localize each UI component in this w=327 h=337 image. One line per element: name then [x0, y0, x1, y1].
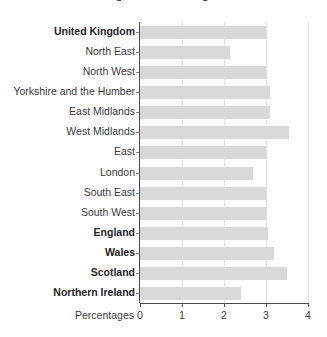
- category-label: North East: [0, 46, 135, 57]
- value-tick: [224, 303, 225, 307]
- category-tick: [136, 32, 139, 33]
- category-tick: [136, 253, 139, 254]
- category-tick: [136, 173, 139, 174]
- category-tick: [136, 233, 139, 234]
- bar-row: [140, 163, 308, 185]
- category-label: North West: [0, 66, 135, 77]
- bar: [140, 66, 266, 79]
- category-label: East: [0, 146, 135, 157]
- value-tick: [266, 303, 267, 307]
- category-label: United Kingdom: [0, 26, 135, 37]
- bar: [140, 146, 266, 159]
- bar: [140, 267, 287, 280]
- value-tick: [308, 303, 309, 307]
- bar: [140, 126, 289, 139]
- bar-row: [140, 263, 308, 285]
- bar: [140, 287, 241, 300]
- category-tick: [136, 132, 139, 133]
- bar: [140, 247, 274, 260]
- category-label: Wales: [0, 247, 135, 258]
- category-axis: [139, 22, 140, 303]
- category-tick: [136, 72, 139, 73]
- value-tick-label: 4: [298, 309, 318, 321]
- category-tick: [136, 152, 139, 153]
- gridline: [308, 22, 309, 303]
- bar-chart-figure: Figure 1: Percentages United KingdomNort…: [0, 0, 327, 337]
- category-label: East Midlands: [0, 106, 135, 117]
- bar-row: [140, 243, 308, 265]
- value-tick: [140, 303, 141, 307]
- category-label: South East: [0, 187, 135, 198]
- category-tick: [136, 273, 139, 274]
- bar: [140, 46, 230, 59]
- bar: [140, 167, 253, 180]
- category-label: Yorkshire and the Humber: [0, 86, 135, 97]
- bar-row: [140, 82, 308, 104]
- category-label: West Midlands: [0, 126, 135, 137]
- bar-row: [140, 122, 308, 144]
- category-tick: [136, 293, 139, 294]
- value-tick-label: 3: [256, 309, 276, 321]
- category-label: Northern Ireland: [0, 287, 135, 298]
- category-label: England: [0, 227, 135, 238]
- bar: [140, 227, 268, 240]
- bar-row: [140, 102, 308, 124]
- bar: [140, 187, 266, 200]
- bar-row: [140, 22, 308, 44]
- bar-row: [140, 283, 308, 305]
- category-tick: [136, 213, 139, 214]
- bar-row: [140, 142, 308, 164]
- value-tick-label: 2: [214, 309, 234, 321]
- category-tick: [136, 92, 139, 93]
- chart-title: Figure 1: Percentages: [0, 0, 327, 1]
- value-tick-label: 1: [172, 309, 192, 321]
- bar: [140, 26, 266, 39]
- bar-row: [140, 223, 308, 245]
- category-label: London: [0, 167, 135, 178]
- bar-row: [140, 62, 308, 84]
- bar-row: [140, 203, 308, 225]
- category-tick: [136, 193, 139, 194]
- plot-area: [140, 22, 308, 303]
- value-axis-title: Percentages: [48, 309, 134, 321]
- category-tick: [136, 112, 139, 113]
- bar: [140, 207, 266, 220]
- bar-row: [140, 183, 308, 205]
- bar: [140, 86, 270, 99]
- bar-row: [140, 42, 308, 64]
- bar: [140, 106, 270, 119]
- category-label: South West: [0, 207, 135, 218]
- value-tick: [182, 303, 183, 307]
- category-tick: [136, 52, 139, 53]
- category-label: Scotland: [0, 267, 135, 278]
